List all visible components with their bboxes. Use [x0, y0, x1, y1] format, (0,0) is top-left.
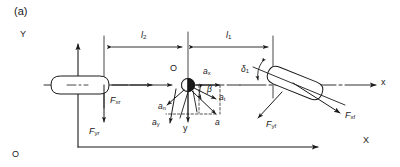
rear-wheel [51, 76, 109, 94]
body-y-axis-label: y [183, 124, 188, 133]
acceleration-ax-subscript: x [208, 70, 211, 76]
force-Fyf-label: Fyf [266, 120, 276, 129]
force-Fyf-vector [258, 92, 282, 118]
acceleration-a-label: a [215, 118, 220, 127]
steer-angle-delta1-indicator [258, 62, 262, 80]
acceleration-at-label: at [219, 93, 225, 103]
force-Fxr-subscript: xr [116, 98, 121, 105]
dimension-extension-lines [104, 32, 273, 120]
acceleration-a-symbol: a [215, 117, 220, 127]
acceleration-ay-subscript: y [157, 121, 160, 127]
acceleration-at-vector [194, 88, 216, 99]
force-Fyf-subscript: yf [272, 122, 277, 129]
global-x-axis-label: X [363, 136, 369, 145]
figure-caption: (a) [14, 6, 27, 17]
force-Fyr-subscript: yr [95, 129, 100, 136]
global-y-axis-label: Y [20, 30, 26, 39]
steer-angle-subscript: 1 [246, 68, 249, 74]
vehicle-free-body-diagram [0, 0, 400, 167]
acceleration-an-subscript: n [163, 105, 166, 111]
dimension-l2-subscript: 2 [143, 33, 146, 40]
acceleration-an-label: an [158, 102, 166, 112]
front-wheel-centre-line [253, 67, 345, 105]
force-Fyr-label: Fyr [89, 127, 100, 136]
cg-marker [182, 79, 195, 92]
global-origin-label: O [12, 150, 19, 159]
sideslip-angle-beta-label: β [207, 85, 212, 94]
dimension-l1-label: l1 [226, 31, 231, 40]
steer-angle-delta1-label: δ1 [241, 65, 249, 75]
acceleration-ay-vector [170, 89, 176, 123]
sideslip-angle-beta-indicator [199, 88, 201, 99]
body-x-axis-label: x [381, 78, 386, 87]
front-wheel [265, 64, 326, 102]
acceleration-ay-label: ay [152, 118, 160, 128]
force-Fxf-subscript: xf [351, 113, 356, 120]
dimension-l1-subscript: 1 [228, 33, 231, 40]
dimension-l2-label: l2 [141, 31, 146, 40]
acceleration-ax-label: ax [203, 67, 211, 77]
acceleration-at-subscript: t [224, 96, 226, 102]
force-Fxf-label: Fxf [345, 111, 355, 120]
force-Fxr-label: Fxr [110, 96, 121, 105]
cg-label: O [170, 64, 177, 73]
sideslip-angle-symbol: β [207, 84, 212, 94]
